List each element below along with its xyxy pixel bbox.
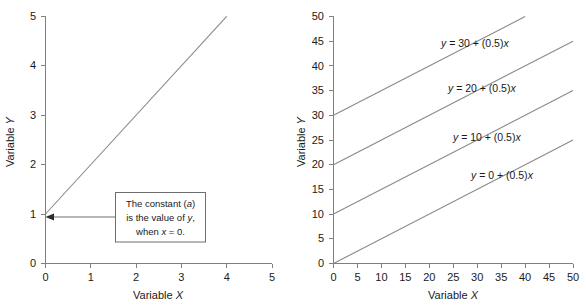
y-tick-label: 25	[312, 134, 324, 146]
chart-panel-left: 0 1 2 3 4 5 0 1 2 3 4	[0, 0, 293, 308]
y-tick-label: 30	[312, 109, 324, 121]
x-axis-tick-labels-left: 0 1 2 3 4 5	[42, 271, 275, 283]
regression-line-0	[334, 140, 574, 264]
y-tick-label: 10	[312, 208, 324, 220]
svg-text:The constant (a): The constant (a)	[126, 198, 195, 209]
y-tick-label: 0	[318, 257, 324, 269]
x-tick-label: 50	[567, 271, 579, 283]
regression-line-10	[334, 91, 574, 215]
x-axis-title-left: Variable X	[133, 289, 184, 301]
x-tick-label: 45	[543, 271, 555, 283]
x-axis-title-right: Variable X	[428, 289, 479, 301]
y-tick-label: 15	[312, 183, 324, 195]
x-tick-label: 1	[88, 271, 94, 283]
y-tick-label: 4	[30, 59, 36, 71]
y-tick-label: 35	[312, 84, 324, 96]
x-tick-label: 4	[224, 271, 230, 283]
regression-line-30	[334, 17, 526, 116]
svg-text:when x = 0.: when x = 0.	[135, 226, 185, 237]
x-tick-label: 30	[471, 271, 483, 283]
y-tick-label: 2	[30, 158, 36, 170]
x-tick-label: 20	[423, 271, 435, 283]
y-tick-label: 5	[318, 232, 324, 244]
left-chart-svg: 0 1 2 3 4 5 0 1 2 3 4	[0, 0, 293, 308]
x-tick-label: 35	[495, 271, 507, 283]
y-axis-title-left: Variable Y	[4, 116, 16, 167]
y-axis-title-right: Variable Y	[295, 116, 307, 167]
x-tick-label: 3	[178, 271, 184, 283]
y-tick-label: 40	[312, 60, 324, 72]
y-tick-label: 5	[30, 10, 36, 22]
y-axis-ticks-left	[41, 16, 46, 263]
x-axis-tick-labels-right: 0 5 10 15 20 25 30 35 40 45 50	[330, 271, 579, 283]
x-tick-label: 40	[519, 271, 531, 283]
series-label-20: y = 20 + (0.5)x	[447, 82, 516, 94]
y-tick-label: 0	[30, 257, 36, 269]
x-tick-label: 2	[133, 271, 139, 283]
y-axis-ticks-right	[329, 17, 334, 264]
series-label-0: y = 0 + (0.5)x	[470, 169, 534, 181]
svg-text:is the value of y,: is the value of y,	[126, 212, 195, 223]
regression-line-20	[334, 41, 574, 165]
y-tick-label: 45	[312, 35, 324, 47]
x-tick-label: 5	[269, 271, 275, 283]
constant-callout-text: The constant (a) is the value of y, when…	[126, 198, 195, 237]
x-tick-label: 0	[330, 271, 336, 283]
right-chart-svg: 0 5 10 15 20 25 30 35 40 45 50	[293, 0, 586, 308]
y-tick-label: 50	[312, 10, 324, 22]
x-axis-ticks-right	[334, 264, 574, 269]
y-tick-label: 1	[30, 208, 36, 220]
callout-arrow-icon	[46, 213, 55, 220]
y-tick-label: 3	[30, 109, 36, 121]
chart-panel-right: 0 5 10 15 20 25 30 35 40 45 50	[293, 0, 586, 308]
y-tick-label: 20	[312, 158, 324, 170]
x-tick-label: 15	[399, 271, 411, 283]
y-axis-tick-labels-left: 0 1 2 3 4 5	[30, 10, 36, 269]
x-tick-label: 0	[42, 271, 48, 283]
two-panel-regression-figure: 0 1 2 3 4 5 0 1 2 3 4	[0, 0, 586, 308]
regression-line	[46, 16, 227, 214]
x-axis-ticks-left	[46, 264, 273, 269]
x-tick-label: 25	[447, 271, 459, 283]
x-tick-label: 5	[354, 271, 360, 283]
y-axis-tick-labels-right: 0 5 10 15 20 25 30 35 40 45 50	[312, 10, 324, 269]
x-tick-label: 10	[375, 271, 387, 283]
series-label-30: y = 30 + (0.5)x	[440, 37, 509, 49]
series-label-10: y = 10 + (0.5)x	[452, 131, 521, 143]
